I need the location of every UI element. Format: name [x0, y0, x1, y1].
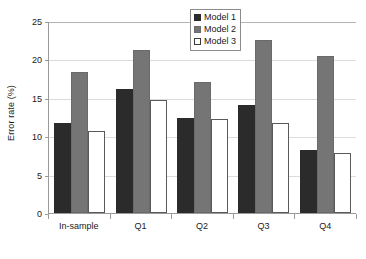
legend-label: Model 3 — [204, 36, 236, 47]
x-axis-category-labels: In-sampleQ1Q2Q3Q4 — [48, 221, 356, 241]
x-tick-mark — [110, 214, 111, 219]
x-axis-label: Q4 — [294, 221, 356, 241]
x-tick-mark — [233, 214, 234, 219]
x-tick-mark — [294, 214, 295, 219]
y-tick-label: 25 — [32, 17, 42, 27]
bar — [150, 100, 167, 213]
bar-chart: Error rate (%) 0510152025 In-sampleQ1Q2Q… — [0, 0, 366, 259]
y-tick-mark — [45, 22, 49, 23]
y-tick-label: 20 — [32, 55, 42, 65]
bar — [177, 118, 194, 213]
y-tick-mark — [45, 60, 49, 61]
bar — [317, 56, 334, 213]
x-tick-mark — [356, 214, 357, 219]
bar-group — [110, 22, 171, 213]
bar — [88, 131, 105, 214]
bar-group — [295, 22, 356, 213]
legend-swatch-icon — [194, 14, 201, 21]
bar — [71, 72, 88, 213]
chart-legend: Model 1Model 2Model 3 — [190, 9, 241, 51]
y-tick-label: 10 — [32, 132, 42, 142]
y-tick-mark — [45, 137, 49, 138]
y-axis-title: Error rate (%) — [0, 0, 22, 225]
legend-item: Model 2 — [194, 24, 236, 35]
bar — [334, 153, 351, 213]
x-axis-label: Q1 — [110, 221, 172, 241]
legend-item: Model 1 — [194, 12, 236, 23]
x-tick-mark — [171, 214, 172, 219]
x-axis-label: In-sample — [48, 221, 110, 241]
y-tick-mark — [45, 99, 49, 100]
bar-group — [233, 22, 294, 213]
y-tick-mark — [45, 176, 49, 177]
bar — [133, 50, 150, 213]
legend-item: Model 3 — [194, 36, 236, 47]
y-axis-tick-labels: 0510152025 — [22, 0, 46, 225]
y-axis-title-text: Error rate (%) — [6, 85, 16, 141]
bar-group — [49, 22, 110, 213]
legend-label: Model 2 — [204, 24, 236, 35]
y-tick-label: 15 — [32, 94, 42, 104]
bar — [255, 40, 272, 213]
legend-swatch-icon — [194, 26, 201, 33]
y-tick-label: 0 — [37, 209, 42, 219]
bar — [300, 150, 317, 213]
x-axis-label: Q2 — [171, 221, 233, 241]
bar — [116, 89, 133, 213]
x-tick-mark — [48, 214, 49, 219]
x-axis-tick-marks — [48, 214, 356, 219]
legend-label: Model 1 — [204, 12, 236, 23]
bar — [238, 105, 255, 213]
x-axis-label: Q3 — [233, 221, 295, 241]
bar — [272, 123, 289, 213]
bar — [54, 123, 71, 213]
legend-swatch-icon — [194, 38, 201, 45]
y-tick-label: 5 — [37, 171, 42, 181]
bar — [211, 119, 228, 213]
bar — [194, 82, 211, 213]
